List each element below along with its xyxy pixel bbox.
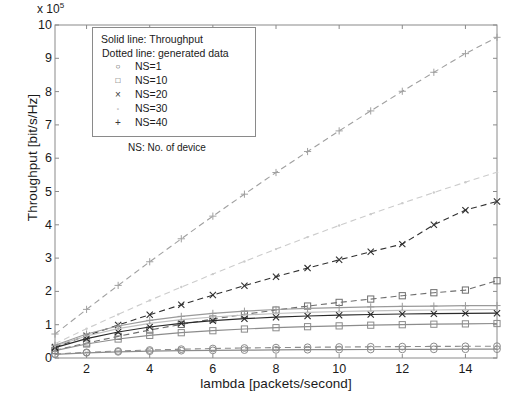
x-data-marker: [304, 265, 310, 271]
plus-data-marker: [430, 302, 437, 309]
plus-data-marker: [272, 169, 279, 176]
dot-data-marker: [85, 327, 87, 329]
chart-figure: x 105 Throughput [bit/s/Hz] 012345678910…: [0, 0, 512, 401]
plus-marker-icon: +: [107, 116, 129, 130]
plus-data-marker: [462, 302, 469, 309]
plus-data-marker: [336, 127, 343, 134]
plus-data-marker: [367, 303, 374, 310]
legend-entries: ○NS=1□NS=10×NS=20·NS=30+NS=40: [99, 60, 249, 130]
legend-box: Solid line: Throughput Dotted line: gene…: [92, 27, 256, 137]
series-ns-30-generated-data: [54, 171, 498, 345]
plus-data-marker: [399, 88, 406, 95]
dot-data-marker: [338, 224, 340, 226]
x-data-marker: [210, 292, 216, 298]
dot-data-marker: [433, 191, 435, 193]
dot-data-marker: [496, 171, 498, 173]
dot-data-marker: [370, 213, 372, 215]
x-data-marker: [462, 207, 468, 213]
legend-item-label: NS=20: [129, 88, 167, 102]
x-data-marker: [241, 283, 247, 289]
plus-data-marker: [493, 34, 500, 41]
plus-data-marker: [304, 148, 311, 155]
legend-item-ns-30: ·NS=30: [99, 102, 249, 116]
legend-footnote: NS: No. of device: [92, 142, 242, 153]
legend-item-ns-40: +NS=40: [99, 116, 249, 130]
legend-header-solid: Solid line: Throughput: [99, 33, 249, 47]
legend-item-ns-1: ○NS=1: [99, 60, 249, 74]
legend-item-label: NS=40: [129, 116, 167, 130]
dot-data-marker: [243, 260, 245, 262]
plot-area: [0, 0, 512, 401]
plus-data-marker: [493, 302, 500, 309]
circle-marker-icon: ○: [107, 60, 129, 74]
x-data-marker: [336, 257, 342, 263]
dot-data-marker: [117, 313, 119, 315]
plus-data-marker: [399, 303, 406, 310]
dot-marker-icon: ·: [107, 102, 129, 116]
dot-data-marker: [464, 181, 466, 183]
x-data-marker: [273, 274, 279, 280]
dot-data-marker: [275, 248, 277, 250]
x-data-marker: [178, 302, 184, 308]
dot-data-marker: [212, 273, 214, 275]
legend-item-ns-10: □NS=10: [99, 74, 249, 88]
plus-data-marker: [430, 69, 437, 76]
legend-item-label: NS=10: [129, 74, 167, 88]
legend-item-label: NS=1: [129, 60, 162, 74]
plus-data-marker: [462, 50, 469, 57]
legend-header-dotted: Dotted line: generated data: [99, 47, 249, 61]
plus-data-marker: [367, 107, 374, 114]
plus-data-marker: [241, 191, 248, 198]
dot-data-marker: [149, 299, 151, 301]
legend-item-label: NS=30: [129, 102, 167, 116]
plus-data-marker: [209, 213, 216, 220]
dot-data-marker: [306, 236, 308, 238]
square-marker-icon: □: [107, 74, 129, 88]
dot-data-marker: [180, 286, 182, 288]
dot-data-marker: [401, 202, 403, 204]
legend-item-ns-20: ×NS=20: [99, 88, 249, 102]
x-data-marker: [431, 222, 437, 228]
